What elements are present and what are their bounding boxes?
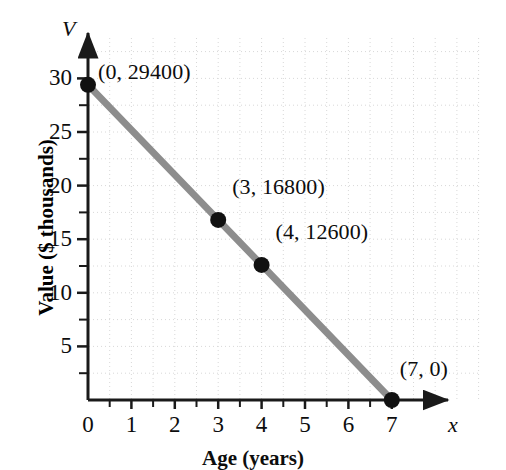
data-point-marker xyxy=(254,257,270,273)
point-annotation: (4, 12600) xyxy=(276,221,369,243)
point-annotation: (7, 0) xyxy=(400,358,448,380)
y-axis-title-container: Value ($ thousands) xyxy=(34,118,59,338)
y-axis-variable-label: V xyxy=(62,18,75,40)
data-point-marker xyxy=(210,212,226,228)
y-tick-label: 5 xyxy=(0,334,72,357)
data-point-marker xyxy=(384,392,400,408)
y-tick-label: 30 xyxy=(0,66,72,89)
y-axis-title: Value ($ thousands) xyxy=(34,139,58,316)
x-axis-title: Age (years) xyxy=(0,448,506,469)
data-point-marker xyxy=(80,77,96,93)
x-axis-variable-label: x xyxy=(448,414,458,436)
point-annotation: (0, 29400) xyxy=(98,61,191,83)
point-annotation: (3, 16800) xyxy=(232,176,325,198)
x-tick-label: 7 xyxy=(362,413,422,436)
